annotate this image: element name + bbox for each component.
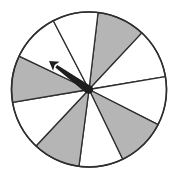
spinner-hub (85, 85, 93, 93)
spinner (0, 0, 173, 172)
spinner-diagram (0, 0, 173, 172)
